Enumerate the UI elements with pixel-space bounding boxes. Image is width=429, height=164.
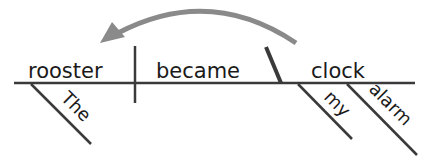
arrow-arc — [118, 11, 296, 43]
modifier-word-the: The — [56, 86, 95, 125]
relation-arrow — [100, 11, 296, 43]
verb-word: became — [156, 59, 240, 83]
subject-word: rooster — [28, 59, 103, 83]
sentence-diagram: rooster became clock The my alarm — [0, 0, 429, 164]
predicate-nominative-divider — [266, 47, 281, 83]
modifier-word-my: my — [320, 86, 355, 121]
predicate-nominative-word: clock — [311, 59, 366, 83]
modifier-word-alarm: alarm — [365, 78, 416, 129]
